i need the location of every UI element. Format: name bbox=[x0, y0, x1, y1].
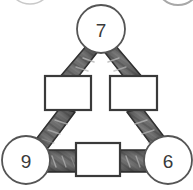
cropped-circle-top-left bbox=[8, 0, 52, 4]
circle-node-top[interactable]: 7 bbox=[77, 5, 125, 53]
circle-node-bottom-right-label: 6 bbox=[163, 151, 174, 172]
diagram-svg: 7 9 6 bbox=[0, 0, 193, 190]
circle-node-bottom-left-label: 9 bbox=[21, 151, 32, 172]
cropped-circle-top-right bbox=[156, 0, 193, 5]
circle-node-bottom-right[interactable]: 6 bbox=[144, 136, 192, 184]
answer-box-bottom[interactable] bbox=[76, 143, 120, 176]
answer-box-left[interactable] bbox=[45, 76, 91, 110]
answer-box-right[interactable] bbox=[110, 76, 157, 110]
circle-node-bottom-left[interactable]: 9 bbox=[2, 136, 50, 184]
circle-node-top-label: 7 bbox=[96, 20, 107, 41]
puzzle-diagram-canvas: 7 9 6 bbox=[0, 0, 193, 190]
